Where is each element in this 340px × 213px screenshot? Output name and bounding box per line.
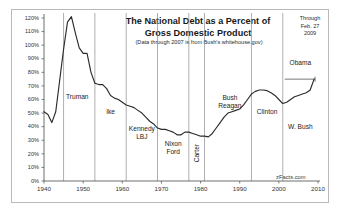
annotation-text: Clinton	[247, 108, 287, 116]
annotation-text: Ford	[153, 148, 193, 156]
x-tick-text: 1980	[194, 185, 208, 192]
y-tick-text: 30%	[28, 137, 39, 143]
y-tick-label-70: 70%	[17, 83, 39, 89]
x-tick-label-1950: 1950	[70, 186, 96, 193]
annotation-text: Kennedy	[122, 125, 162, 133]
y-tick-label-80: 80%	[17, 69, 39, 75]
annotation-text: Carter	[193, 144, 200, 162]
y-tick-label-60: 60%	[17, 96, 39, 102]
y-tick-label-20: 20%	[17, 151, 39, 157]
x-tick-text: 1940	[37, 185, 51, 192]
annotation-text: Truman	[57, 93, 97, 101]
y-tick-label-120: 120%	[17, 15, 39, 21]
annotation-carter: Carter	[194, 144, 201, 162]
y-tick-label-90: 90%	[17, 55, 39, 61]
y-tick-label-0: 0%	[17, 178, 39, 184]
annotation-bush-reagan: BushReagan	[210, 94, 250, 110]
obama-level-marker	[285, 77, 315, 82]
y-tick-text: 10%	[28, 164, 39, 170]
y-tick-text: 120%	[25, 15, 39, 21]
annotation-kennedy-lbj: KennedyLBJ	[122, 125, 162, 141]
x-tick-text: 1970	[155, 185, 169, 192]
x-tick-label-2000: 2000	[266, 186, 292, 193]
y-tick-label-50: 50%	[17, 110, 39, 116]
annotation-nixon-ford: NixonFord	[153, 140, 193, 156]
annotation-text: Ike	[91, 108, 131, 116]
annotation-text: Bush	[210, 94, 250, 102]
annotation-text: Obama	[280, 59, 320, 67]
y-tick-label-40: 40%	[17, 123, 39, 129]
x-tick-text: 2000	[272, 185, 286, 192]
y-tick-label-30: 30%	[17, 137, 39, 143]
x-tick-text: 1950	[76, 185, 90, 192]
annotation-obama: Obama	[280, 59, 320, 67]
y-tick-text: 80%	[28, 69, 39, 75]
y-tick-text: 20%	[28, 151, 39, 157]
y-tick-label-10: 10%	[17, 164, 39, 170]
annotation-text: W. Bush	[280, 123, 320, 131]
y-tick-text: 90%	[28, 55, 39, 61]
x-tick-label-1960: 1960	[109, 186, 135, 193]
x-tick-label-1990: 1990	[227, 186, 253, 193]
national-debt-gdp-chart: The National Debt as a Percent of Gross …	[0, 0, 340, 213]
x-tick-label-1980: 1980	[188, 186, 214, 193]
annotation-clinton: Clinton	[247, 108, 287, 116]
annotation-truman: Truman	[57, 93, 97, 101]
annotation-text: Reagan	[210, 102, 250, 110]
x-tick-text: 1990	[233, 185, 247, 192]
y-tick-label-100: 100%	[17, 42, 39, 48]
x-tick-text: 2010	[311, 185, 325, 192]
y-tick-text: 70%	[28, 83, 39, 89]
y-tick-text: 100%	[25, 42, 39, 48]
y-tick-text: 40%	[28, 123, 39, 129]
x-tick-label-2010: 2010	[305, 186, 331, 193]
annotation-w-bush: W. Bush	[280, 123, 320, 131]
x-tick-text: 1960	[115, 185, 129, 192]
annotation-text: Nixon	[153, 140, 193, 148]
x-tick-label-1970: 1970	[148, 186, 174, 193]
axis-tick-marks	[42, 18, 319, 184]
plot-area	[0, 0, 340, 213]
y-tick-text: 50%	[28, 110, 39, 116]
y-tick-text: 110%	[25, 28, 39, 34]
y-tick-text: 0%	[31, 178, 39, 184]
annotation-ike: Ike	[91, 108, 131, 116]
y-tick-text: 60%	[28, 96, 39, 102]
debt-gdp-line	[44, 17, 314, 137]
x-tick-label-1940: 1940	[31, 186, 57, 193]
y-tick-label-110: 110%	[17, 28, 39, 34]
